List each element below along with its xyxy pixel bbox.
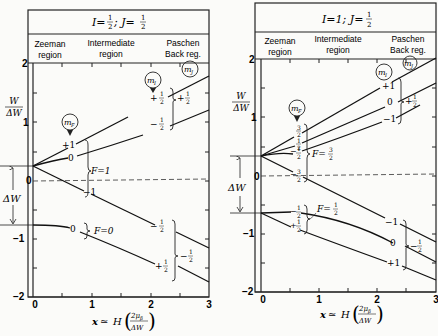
svg-text:F: F [70, 122, 75, 128]
svg-text:x: x [91, 316, 99, 327]
left-x-ticks: 0 1 2 3 [32, 299, 212, 310]
svg-text:ΔW: ΔW [5, 108, 22, 118]
right-panel: I=1; J= 1 2 Zeeman region Intermediate r… [227, 3, 438, 326]
svg-text:+: + [155, 261, 163, 271]
svg-text:2: 2 [186, 98, 190, 105]
left-pb-upper-labels: + 12 − 12 + 12 [150, 88, 190, 131]
svg-text:1: 1 [297, 204, 301, 211]
svg-text:2: 2 [108, 23, 112, 31]
svg-text:2: 2 [297, 226, 301, 233]
svg-text:2: 2 [249, 54, 255, 65]
svg-text:0: 0 [68, 153, 74, 163]
left-mF-labels: +1 0 −1 0 [62, 140, 96, 234]
svg-text:3: 3 [329, 146, 333, 153]
svg-text:J: J [190, 69, 194, 76]
svg-text:Paschen: Paschen [391, 34, 424, 44]
svg-text:+: + [405, 96, 413, 106]
left-y-label: W ΔW [5, 96, 23, 118]
svg-text:−: − [290, 147, 297, 156]
svg-text:region: region [326, 45, 350, 55]
svg-text:Back reg.: Back reg. [165, 49, 201, 59]
svg-text:0: 0 [387, 97, 393, 107]
svg-text:1: 1 [160, 90, 164, 97]
label-F0: F=0 [93, 226, 114, 236]
svg-text:I: I [384, 72, 388, 78]
svg-text:3: 3 [297, 168, 301, 175]
left-x-label: x ≃ H ( 2μ β ΔW ) [91, 309, 156, 333]
svg-text:ΔW: ΔW [358, 317, 372, 325]
svg-text:−1: −1 [385, 217, 398, 227]
label-F32: F= [311, 149, 326, 159]
right-title: I=1; J= 1 2 [321, 11, 372, 29]
right-pb-lower-labels: −1 0 +1 − 12 [385, 217, 422, 270]
svg-text:−: − [290, 170, 297, 179]
svg-text:−: − [150, 221, 158, 231]
svg-text:1: 1 [108, 14, 112, 22]
svg-text:+1: +1 [382, 81, 395, 91]
region-zeeman: Zeeman [34, 39, 65, 49]
svg-text:1: 1 [160, 218, 164, 225]
svg-text:≃: ≃ [328, 309, 336, 320]
svg-text:−1: −1 [83, 187, 96, 197]
svg-text:H: H [340, 309, 350, 320]
label-F12: F= [316, 204, 331, 214]
svg-text:+: + [150, 93, 158, 103]
right-mI-bubble: m I [376, 64, 392, 80]
left-title: I= 1 2 ; J= 1 2 [91, 14, 146, 31]
svg-text:0: 0 [260, 294, 266, 305]
svg-text:Zeeman: Zeeman [264, 36, 295, 46]
svg-text:1: 1 [164, 258, 168, 265]
right-x-ticks: 0 1 2 3 [260, 294, 438, 305]
svg-text:−: − [180, 251, 188, 261]
svg-text:3: 3 [297, 124, 301, 131]
svg-text:F: F [297, 108, 302, 114]
svg-text:1: 1 [89, 299, 95, 310]
svg-text:I=: I= [91, 16, 106, 29]
svg-text:2: 2 [413, 101, 417, 108]
right-x-label: x ≃ H ( 2μ β ΔW ) [319, 302, 384, 326]
svg-text:1: 1 [160, 116, 164, 123]
svg-text:W: W [9, 96, 19, 106]
svg-text:): ) [148, 309, 156, 333]
svg-text:W: W [236, 91, 246, 101]
svg-text:−2: −2 [242, 286, 254, 297]
svg-text:Intermediate: Intermediate [314, 34, 362, 44]
svg-text:2: 2 [164, 266, 168, 273]
svg-text:1: 1 [189, 248, 193, 255]
left-panel: I= 1 2 ; J= 1 2 Zeeman region Intermedia… [0, 10, 212, 333]
svg-text:1: 1 [297, 145, 301, 152]
svg-text:1: 1 [297, 218, 301, 225]
svg-text:+: + [177, 93, 185, 103]
svg-text:I: I [153, 80, 157, 86]
svg-text:2: 2 [189, 256, 193, 263]
svg-text:H: H [112, 316, 122, 327]
svg-text:+: + [290, 221, 297, 230]
svg-text:1: 1 [413, 93, 417, 100]
svg-text:−1: −1 [13, 233, 25, 244]
svg-text:1: 1 [297, 137, 301, 144]
region-intermediate: Intermediate [87, 38, 135, 48]
right-mF-bubble: m F [289, 100, 305, 122]
right-mF-labels: 32 12 −12 −32 −12 +12 [290, 124, 301, 233]
svg-text:−: − [290, 207, 297, 216]
svg-text:0: 0 [254, 171, 260, 182]
svg-text:2μ: 2μ [358, 305, 368, 313]
svg-text:−1: −1 [243, 228, 255, 239]
svg-text:1: 1 [141, 14, 145, 22]
svg-text:; J=: ; J= [113, 16, 135, 29]
label-F1: F=1 [90, 166, 111, 176]
svg-text:0: 0 [32, 299, 38, 310]
svg-text:Back reg.: Back reg. [390, 45, 426, 55]
svg-text:x: x [319, 309, 327, 320]
svg-text:): ) [376, 302, 384, 326]
svg-text:+1: +1 [387, 258, 400, 268]
svg-text:0: 0 [26, 175, 32, 186]
svg-text:1: 1 [251, 112, 257, 123]
svg-text:2: 2 [160, 124, 164, 131]
region-paschen-back: Paschen [166, 38, 199, 48]
left-mI-bubble: m I [145, 72, 161, 93]
svg-text:2: 2 [297, 176, 301, 183]
svg-text:2: 2 [367, 21, 371, 29]
svg-text:3: 3 [433, 294, 438, 305]
svg-text:1: 1 [23, 117, 29, 128]
